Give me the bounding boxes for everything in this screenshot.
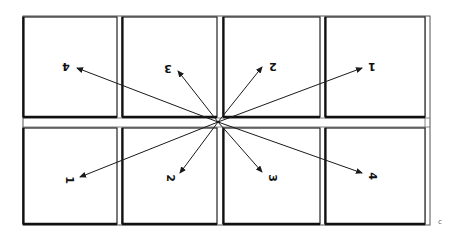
label-bottom-2: 2	[164, 174, 177, 182]
label-top-2: 2	[269, 60, 277, 73]
corner-mark: c	[438, 218, 442, 226]
label-bottom-4: 4	[366, 172, 379, 180]
label-top-4: 4	[62, 60, 70, 73]
label-top-3: 3	[164, 62, 172, 75]
panel-grid-diagram: 43211234 c	[0, 0, 452, 241]
label-bottom-3: 3	[266, 174, 279, 182]
label-top-1: 1	[368, 60, 376, 73]
label-bottom-1: 1	[63, 176, 76, 184]
